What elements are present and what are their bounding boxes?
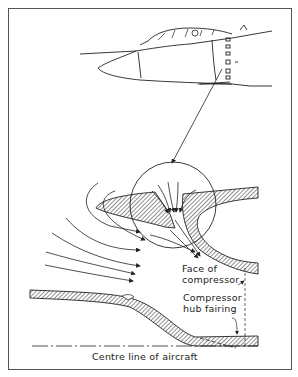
label-hub-line2: hub fairing — [183, 303, 242, 314]
label-face-of-compressor: Face of compressor — [182, 263, 239, 285]
label-centre-line: Centre line of aircraft — [92, 351, 198, 362]
aircraft-nose — [80, 25, 272, 86]
intake-lip — [96, 192, 175, 228]
diagram-canvas — [0, 0, 298, 377]
label-compressor-hub-fairing: Compressor hub fairing — [183, 292, 242, 314]
label-hub-line1: Compressor — [183, 292, 242, 303]
duct-outer-wall — [182, 187, 258, 274]
label-face-line1: Face of — [182, 263, 239, 274]
hub-pointer — [232, 318, 237, 334]
label-face-line2: compressor — [182, 274, 239, 285]
